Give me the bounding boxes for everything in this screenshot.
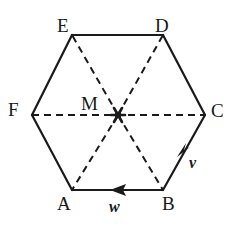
dashed-M-D — [118, 35, 163, 115]
vertex-label-F: F — [8, 100, 19, 119]
dashed-M-B — [118, 115, 163, 190]
edge-C-B — [163, 115, 205, 190]
center-point-marker — [111, 108, 125, 122]
vertex-label-E: E — [57, 16, 69, 35]
hexagon-figure: E D F C M A B v w — [0, 0, 238, 241]
vertex-label-B: B — [162, 194, 175, 213]
dashed-M-A — [72, 115, 118, 190]
vertex-label-A: A — [57, 194, 71, 213]
edge-A-F — [32, 115, 72, 190]
edge-F-E — [32, 35, 72, 115]
vertex-label-C: C — [211, 101, 224, 120]
vertex-label-D: D — [155, 16, 169, 35]
vector-label-w: w — [109, 199, 120, 215]
edge-D-C — [163, 35, 205, 115]
vector-label-v: v — [189, 155, 196, 171]
center-label-M: M — [81, 94, 98, 113]
